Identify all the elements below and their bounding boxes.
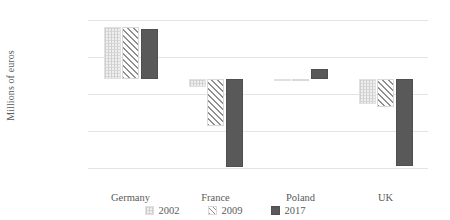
legend-swatch-icon (208, 206, 217, 215)
legend-item[interactable]: 2009 (208, 205, 243, 216)
x-axis-category-label: UK (378, 192, 393, 203)
bar[interactable] (226, 79, 243, 166)
x-axis-category-label: Poland (286, 192, 315, 203)
legend-swatch-icon (271, 206, 280, 215)
bar[interactable] (274, 79, 291, 81)
bar-group (104, 20, 158, 168)
bar-chart: Millions of euros 80,00030,000-20,000-70… (0, 0, 450, 220)
bar[interactable] (311, 69, 328, 79)
bar[interactable] (104, 27, 121, 79)
x-axis-category-label: Germany (111, 192, 150, 203)
bar-group (274, 20, 328, 168)
legend-label: 2002 (159, 205, 180, 216)
bar[interactable] (207, 79, 224, 126)
y-axis-title: Millions of euros (2, 0, 18, 170)
bar[interactable] (122, 27, 139, 79)
plot-area: 80,00030,000-20,000-70,000-120,000 Germa… (88, 20, 428, 168)
legend-swatch-icon (145, 206, 154, 215)
bar-group (359, 20, 413, 168)
y-axis-title-text: Millions of euros (5, 50, 16, 121)
bar[interactable] (141, 29, 158, 79)
bar[interactable] (396, 79, 413, 166)
bar[interactable] (189, 79, 206, 86)
legend-label: 2009 (222, 205, 243, 216)
bar[interactable] (377, 79, 394, 107)
legend-item[interactable]: 2002 (145, 205, 180, 216)
chart-legend: 200220092017 (0, 205, 450, 216)
gridline (88, 168, 428, 169)
legend-item[interactable]: 2017 (271, 205, 306, 216)
x-axis-category-label: France (201, 192, 230, 203)
legend-label: 2017 (285, 205, 306, 216)
bar[interactable] (292, 79, 309, 81)
bar[interactable] (359, 79, 376, 103)
bar-group (189, 20, 243, 168)
